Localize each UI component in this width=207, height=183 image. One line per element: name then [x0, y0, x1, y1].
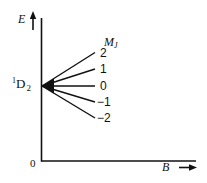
- term-symbol-subscript: 2: [25, 83, 31, 93]
- sublevel-label-mj-0: 0: [100, 80, 107, 92]
- mj-group-label-subscript: J: [114, 41, 118, 50]
- x-axis-arrow-head: [189, 164, 197, 170]
- zeeman-splitting-figure: E B 0 1D2 MJ 2 1 0 −1 −2: [0, 0, 207, 183]
- y-axis-arrow-head: [30, 11, 36, 19]
- level-convergence-point: [42, 79, 54, 94]
- term-symbol-label: 1D2: [12, 77, 31, 93]
- sublevel-label-mj-minus1: −1: [97, 96, 111, 108]
- y-axis-label: E: [18, 13, 25, 25]
- sublevel-label-mj-2: 2: [100, 47, 107, 59]
- sublevel-line-mj-2: [42, 53, 95, 87]
- sublevel-label-mj-1: 1: [100, 63, 107, 75]
- origin-label: 0: [30, 158, 36, 169]
- sublevel-label-mj-minus2: −2: [97, 112, 111, 124]
- x-axis-label: B: [162, 161, 169, 173]
- term-symbol-letter: D: [16, 76, 25, 91]
